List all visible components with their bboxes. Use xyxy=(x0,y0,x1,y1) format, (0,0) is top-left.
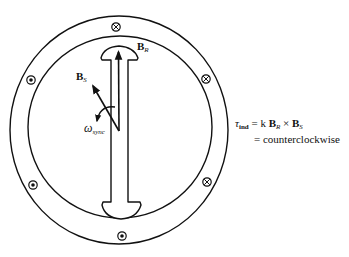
conductor-cross-icon xyxy=(202,75,210,83)
tau-sub: ind xyxy=(239,123,249,131)
br-label-sub: R xyxy=(144,46,148,54)
torque-equation-line1: τind = k BR × BS xyxy=(235,118,303,131)
conductor-dot-icon xyxy=(29,181,37,189)
conductor-cross-icon xyxy=(203,178,211,186)
rotor xyxy=(101,46,141,219)
cross-operator: × xyxy=(280,117,292,129)
br-vector-arrow xyxy=(119,52,120,131)
br-term: B xyxy=(269,117,276,129)
conductor-dot-icon xyxy=(118,232,126,240)
bs-label: BS xyxy=(76,71,87,84)
conductor-dot-icon xyxy=(27,76,35,84)
conductor-cross-icon xyxy=(112,23,120,31)
omega-sub: sync xyxy=(92,128,104,136)
bs-label-sub: S xyxy=(83,76,87,84)
omega-sync-label: ωsync xyxy=(84,122,105,136)
equals-k: = k xyxy=(251,117,268,129)
br-label: BR xyxy=(137,41,149,54)
bs-term-sub: S xyxy=(299,123,303,131)
torque-equation-line2: = counterclockwise xyxy=(254,134,340,145)
